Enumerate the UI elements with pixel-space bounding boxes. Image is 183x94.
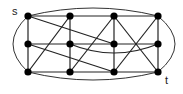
node-c1 (24, 68, 31, 75)
graph-diagram: s t (0, 0, 183, 94)
node-c2 (66, 68, 73, 75)
node-b4 (154, 40, 161, 47)
node-s (24, 12, 31, 19)
node-a4 (154, 12, 161, 19)
edge-s-b3 (28, 16, 114, 44)
sink-label: t (165, 74, 168, 86)
node-t (154, 68, 161, 75)
node-a3 (110, 12, 117, 19)
node-b3 (110, 40, 117, 47)
edge-b1-c3 (28, 44, 114, 72)
node-a2 (66, 12, 73, 19)
source-label: s (12, 5, 18, 17)
node-c3 (110, 68, 117, 75)
node-b1 (24, 40, 31, 47)
outer-arc-top (28, 8, 158, 16)
outer-arc-bottom (28, 72, 158, 80)
node-b2 (66, 40, 73, 47)
